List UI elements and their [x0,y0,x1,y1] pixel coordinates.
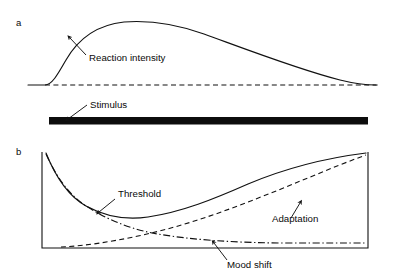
mood-shift-curve [46,154,366,243]
reaction-intensity-label: Reaction intensity [89,52,166,63]
panel-b-letter: b [16,146,21,157]
adaptation-curve [61,155,366,247]
panel-b: b Threshold Adaptation Mood shift [16,146,368,270]
stimulus-leader [68,105,87,119]
reaction-intensity-curve [28,22,376,86]
panel-a-letter: a [16,17,22,28]
adaptation-label: Adaptation [272,213,318,224]
figure-canvas: a Reaction intensity Stimulus b Threshol… [0,0,397,280]
reaction-intensity-leader [70,38,86,55]
panel-a: a Reaction intensity Stimulus [16,17,378,125]
threshold-label: Threshold [118,188,161,199]
figure-root: a Reaction intensity Stimulus b Threshol… [0,0,397,280]
threshold-leader [99,199,115,212]
stimulus-label: Stimulus [90,99,127,110]
mood-shift-leader [214,243,227,260]
threshold-curve [46,153,366,218]
stimulus-bar [49,117,368,125]
axis-frame [42,152,368,248]
mood-shift-label: Mood shift [227,259,272,270]
